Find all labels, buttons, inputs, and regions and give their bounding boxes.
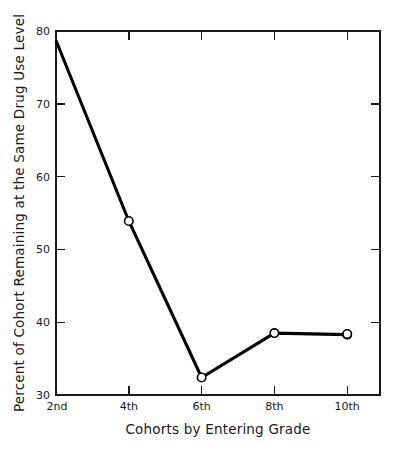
y-tick-label-40: 40 <box>36 316 50 329</box>
bottom-caption-ghost <box>0 441 401 450</box>
x-tick-label-8th: 8th <box>265 400 283 413</box>
x-tick-label-4th: 4th <box>120 400 138 413</box>
data-point-10th[interactable] <box>343 330 351 338</box>
line-chart: 80 70 60 50 40 30 2nd 4th 6th 8th 10th C… <box>0 0 401 450</box>
x-tick-label-6th: 6th <box>192 400 210 413</box>
y-axis-ticks <box>56 31 65 395</box>
x-tick-labels: 2nd 4th 6th 8th 10th <box>47 400 360 413</box>
plot-frame <box>56 31 380 395</box>
x-tick-label-10th: 10th <box>335 400 360 413</box>
x-axis-ticks <box>129 31 347 395</box>
data-point-4th[interactable] <box>197 373 205 381</box>
y-tick-label-50: 50 <box>36 243 50 256</box>
y-tick-label-80: 80 <box>36 25 50 38</box>
data-point-2nd[interactable] <box>125 217 133 225</box>
x-axis-title: Cohorts by Entering Grade <box>125 421 310 437</box>
y-tick-label-70: 70 <box>36 98 50 111</box>
data-series-line <box>56 41 347 378</box>
y-axis-ticks-right <box>371 104 380 322</box>
x-tick-label-2nd: 2nd <box>47 400 68 413</box>
y-tick-labels: 80 70 60 50 40 30 <box>36 25 50 402</box>
y-tick-label-60: 60 <box>36 171 50 184</box>
chart-figure: 80 70 60 50 40 30 2nd 4th 6th 8th 10th C… <box>0 0 401 450</box>
y-axis-title: Percent of Cohort Remaining at the Same … <box>11 14 27 412</box>
data-point-6th[interactable] <box>270 329 278 337</box>
